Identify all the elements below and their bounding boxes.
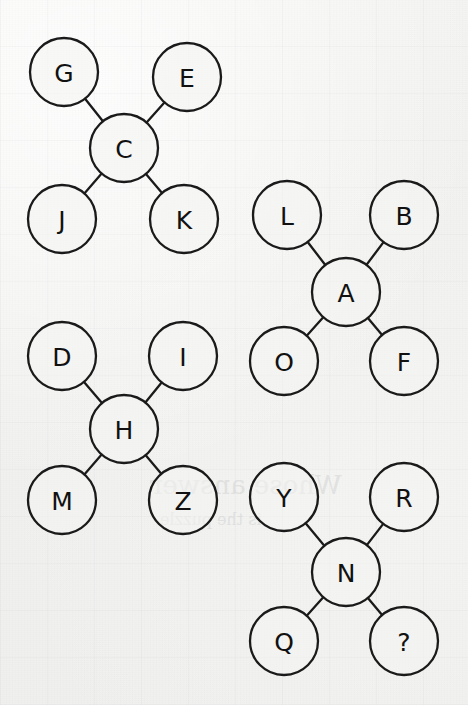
node-a[interactable]: A [312,258,380,326]
node-c[interactable]: C [90,114,158,182]
edge-n-y [306,523,325,546]
edge-h-z [146,455,162,474]
node-m[interactable]: M [28,466,96,534]
edge-h-m [84,455,101,475]
node-label-n: N [337,559,356,588]
edge-n-r [367,524,383,545]
edge-c-e [147,102,165,122]
edge-a-l [308,242,326,265]
node-label-j: J [56,206,65,235]
node-k[interactable]: K [150,185,218,253]
node-b[interactable]: B [370,181,438,249]
node-label-question: ? [397,628,410,657]
edge-c-j [84,174,101,194]
edge-c-g [85,99,103,122]
node-label-f: F [397,348,411,377]
nodes-group: CGEJKALBOFHDIMZNYRQ? [28,38,438,675]
edge-h-d [84,382,102,403]
node-z[interactable]: Z [149,466,217,534]
edge-a-o [307,317,324,335]
node-label-a: A [337,279,354,308]
node-d[interactable]: D [28,322,96,390]
node-label-c: C [115,135,132,164]
diagram-page: Whose answeris the puzzle CGEJKALBOFHDIM… [0,0,468,705]
node-label-z: Z [174,487,191,516]
letter-cluster-graph: CGEJKALBOFHDIMZNYRQ? [0,0,468,705]
node-label-o: O [274,348,294,377]
node-label-r: R [395,484,412,513]
node-l[interactable]: L [253,181,321,249]
node-label-k: K [176,206,193,235]
node-n[interactable]: N [312,538,380,606]
edge-h-i [145,382,161,402]
node-f[interactable]: F [370,327,438,395]
node-r[interactable]: R [370,463,438,531]
node-label-g: G [54,59,73,88]
node-h[interactable]: H [90,395,158,463]
node-question[interactable]: ? [370,607,438,675]
node-label-q: Q [274,628,294,657]
node-label-l: L [280,202,294,231]
node-e[interactable]: E [153,43,221,111]
edge-n-? [368,598,382,615]
node-g[interactable]: G [30,38,98,106]
node-label-y: Y [275,484,292,513]
node-label-e: E [179,64,195,93]
node-j[interactable]: J [28,185,96,253]
node-q[interactable]: Q [250,607,318,675]
node-label-b: B [395,202,412,231]
edge-a-f [368,318,382,335]
node-o[interactable]: O [250,327,318,395]
edge-a-b [366,242,383,265]
node-label-m: M [51,487,73,516]
edge-n-q [307,597,324,615]
edge-c-k [146,174,162,193]
node-label-i: I [179,343,186,372]
node-label-d: D [52,343,71,372]
node-y[interactable]: Y [250,463,318,531]
node-label-h: H [115,416,134,445]
node-i[interactable]: I [149,322,217,390]
